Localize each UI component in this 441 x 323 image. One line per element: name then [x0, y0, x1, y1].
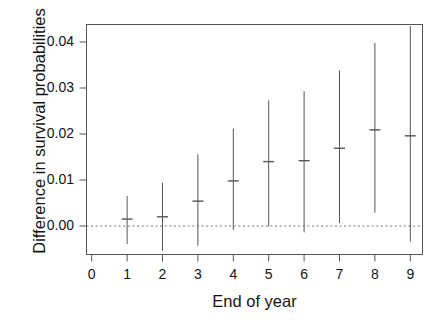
- x-axis-tick-labels: 0123456789: [0, 0, 441, 323]
- x-tick-label: 4: [221, 266, 245, 282]
- chart-container: 0.000.010.020.030.04 0123456789 Differen…: [0, 0, 441, 323]
- x-tick-label: 8: [363, 266, 387, 282]
- x-tick-label: 6: [292, 266, 316, 282]
- x-tick-label: 5: [257, 266, 281, 282]
- x-tick-label: 1: [115, 266, 139, 282]
- x-tick-label: 7: [328, 266, 352, 282]
- y-axis-title: Difference in survival probabilities: [26, 0, 52, 281]
- x-tick-label: 0: [80, 266, 104, 282]
- x-tick-label: 9: [398, 266, 422, 282]
- x-tick-label: 2: [151, 266, 175, 282]
- x-axis-title: End of year: [86, 292, 423, 311]
- x-tick-label: 3: [186, 266, 210, 282]
